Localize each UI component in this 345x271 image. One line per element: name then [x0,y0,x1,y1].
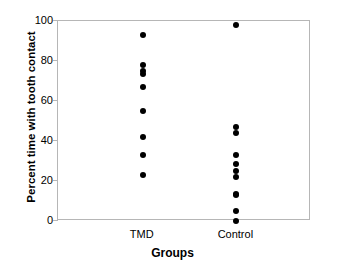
x-axis-title: Groups [0,246,345,260]
scatter-plot-figure: Percent time with tooth contact 02040608… [0,0,345,271]
data-point [233,208,239,214]
x-tick-label-control: Control [218,228,253,240]
y-tick-mark [53,220,58,221]
y-axis-title: Percent time with tooth contact [22,12,40,222]
plot-area [57,20,310,220]
data-point [233,22,239,28]
data-point [140,108,146,114]
data-point [233,161,239,167]
y-tick-label: 20 [13,174,53,186]
y-tick-label: 60 [13,94,53,106]
y-tick-label: 40 [13,134,53,146]
y-tick-label: 0 [13,214,53,226]
data-point [140,134,146,140]
data-point [140,84,146,90]
data-point [233,130,239,136]
x-tick-label-tmd: TMD [130,228,154,240]
data-point [233,152,239,158]
data-point [233,174,239,180]
data-point [140,71,146,77]
data-point [140,172,146,178]
data-point [233,218,239,224]
data-point [140,32,146,38]
data-point [233,192,239,198]
data-point [140,152,146,158]
y-tick-label: 100 [13,14,53,26]
y-tick-label: 80 [13,54,53,66]
